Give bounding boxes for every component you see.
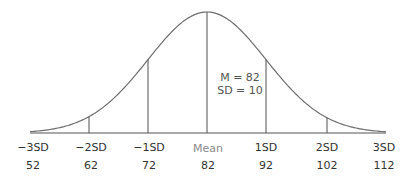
sd-label-neg3: −3SD xyxy=(17,141,49,154)
value-label-92: 92 xyxy=(259,159,273,172)
sd-label-pos3: 3SD xyxy=(373,141,395,154)
value-label-62: 62 xyxy=(84,159,98,172)
sd-label-pos1: 1SD xyxy=(255,141,277,154)
sd-label-pos2: 2SD xyxy=(316,141,338,154)
sd-label-neg1: −1SD xyxy=(133,141,165,154)
mean-annotation: M = 82 xyxy=(217,71,263,84)
value-label-52: 52 xyxy=(26,159,40,172)
sd-lines xyxy=(89,12,327,133)
sd-label-mean: Mean xyxy=(193,142,223,155)
sd-annotation: SD = 10 xyxy=(217,84,263,97)
value-label-102: 102 xyxy=(317,159,338,172)
value-label-82: 82 xyxy=(201,159,215,172)
bell-curve xyxy=(30,12,386,132)
value-label-112: 112 xyxy=(374,159,395,172)
stats-annotation: M = 82 SD = 10 xyxy=(217,71,263,97)
sd-label-neg2: −2SD xyxy=(75,141,107,154)
value-label-72: 72 xyxy=(142,159,156,172)
